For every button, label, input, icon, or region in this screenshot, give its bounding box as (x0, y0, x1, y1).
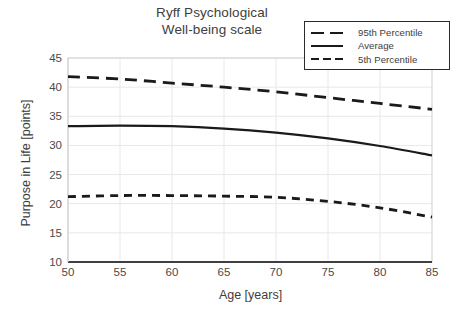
legend-key-dashed-long-icon (311, 27, 351, 38)
x-tick-60: 60 (155, 266, 189, 278)
legend-item-average: Average (311, 39, 443, 52)
legend-key-dashed-short-icon (311, 54, 351, 65)
x-tick-70: 70 (259, 266, 293, 278)
legend-label-95th: 95th Percentile (358, 27, 423, 38)
legend-label-average: Average (358, 40, 394, 51)
legend-item-95th: 95th Percentile (311, 26, 443, 39)
legend-label-5th: 5th Percentile (358, 54, 417, 65)
series-line-95th-percentile (68, 77, 432, 110)
series-line-5th-percentile (68, 195, 432, 217)
y-tick-30: 30 (34, 139, 62, 151)
y-tick-45: 45 (34, 52, 62, 64)
chart-legend: 95th Percentile Average 5th Percentile (304, 21, 450, 70)
x-tick-50: 50 (51, 266, 85, 278)
x-tick-85: 85 (415, 266, 449, 278)
y-axis-title: Purpose in Life [points] (19, 58, 33, 268)
y-tick-25: 25 (34, 169, 62, 181)
series-line-average (68, 126, 432, 156)
x-tick-75: 75 (311, 266, 345, 278)
x-axis-title: Age [years] (68, 288, 433, 302)
x-tick-55: 55 (103, 266, 137, 278)
legend-item-5th: 5th Percentile (311, 53, 443, 66)
x-tick-80: 80 (363, 266, 397, 278)
x-tick-65: 65 (207, 266, 241, 278)
legend-key-solid-icon (311, 40, 351, 51)
y-tick-40: 40 (34, 81, 62, 93)
chart-figure: Ryff Psychological Well-being scale 45 4… (0, 0, 464, 320)
y-tick-15: 15 (34, 227, 62, 239)
y-tick-35: 35 (34, 110, 62, 122)
y-tick-20: 20 (34, 198, 62, 210)
